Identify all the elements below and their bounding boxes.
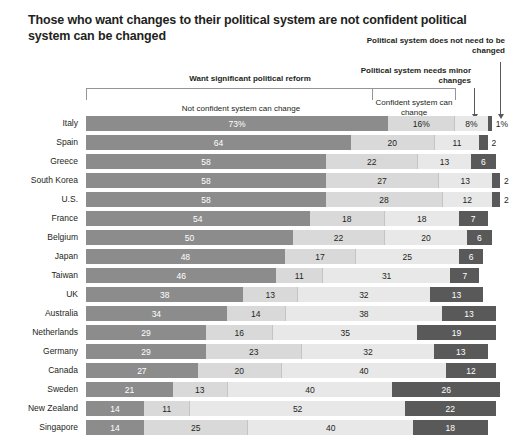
segment-minor-changes: 13 (438, 173, 492, 188)
segment-minor-changes: 20 (384, 230, 467, 245)
segment-value: 13 (452, 290, 461, 300)
segment-no-change: 13 (434, 344, 488, 359)
segment-value: 14 (110, 423, 119, 433)
chart-row: Canada27204012 (0, 363, 531, 382)
country-label: Japan (0, 249, 78, 264)
segment-value: 22 (334, 233, 343, 243)
country-label: Australia (0, 306, 78, 321)
segment-confident: 13 (173, 382, 227, 397)
segment-value: 20 (388, 138, 397, 148)
segment-not-confident: 21 (86, 382, 173, 397)
segment-minor-changes: 11 (434, 135, 480, 150)
segment-minor-changes: 40 (227, 382, 393, 397)
segment-value: 40 (359, 366, 368, 376)
segment-value: 40 (305, 385, 314, 395)
segment-not-confident: 46 (86, 268, 276, 283)
segment-value: 18 (342, 214, 351, 224)
segment-value: 73% (229, 119, 246, 129)
segment-minor-changes: 32 (301, 344, 433, 359)
segment-value: 26 (441, 385, 450, 395)
segment-value: 11 (162, 404, 171, 414)
chart-row: Taiwan4611317 (0, 268, 531, 287)
segment-minor-changes: 40 (247, 420, 413, 435)
segment-confident: 22 (326, 154, 417, 169)
sublabel-confident: Confident system can change (372, 98, 456, 118)
segment-confident: 11 (276, 268, 322, 283)
segment-confident: 13 (243, 287, 297, 302)
segment-no-change: 2 (479, 135, 487, 150)
segment-value: 8% (465, 119, 477, 129)
plot-area: Italy73%16%8%1%Spain6420112Greece5822136… (0, 116, 531, 436)
segment-value: 23 (249, 347, 258, 357)
segment-minor-changes: 38 (285, 306, 442, 321)
segment-confident: 18 (310, 211, 385, 226)
segment-minor-changes: 31 (322, 268, 450, 283)
segment-confident: 20 (351, 135, 434, 150)
stacked-bar: 73%16%8%1% (86, 116, 492, 131)
pointer-arrow-minor-changes-icon (474, 88, 475, 115)
segment-value: 58 (201, 195, 210, 205)
segment-value: 58 (201, 157, 210, 167)
segment-not-confident: 58 (86, 192, 326, 207)
segment-no-change: 13 (430, 287, 484, 302)
segment-not-confident: 50 (86, 230, 293, 245)
segment-value: 32 (359, 290, 368, 300)
segment-value: 29 (141, 347, 150, 357)
segment-value: 22 (367, 157, 376, 167)
segment-not-confident: 27 (86, 363, 198, 378)
segment-no-change: 26 (392, 382, 500, 397)
segment-value: 28 (379, 195, 388, 205)
annotation-no-change: Political system does not need to be cha… (355, 36, 505, 56)
segment-no-change: 7 (459, 211, 488, 226)
segment-not-confident: 29 (86, 344, 206, 359)
segment-no-change: 12 (446, 363, 496, 378)
segment-value: 22 (446, 404, 455, 414)
segment-not-confident: 48 (86, 249, 285, 264)
country-label: Netherlands (0, 325, 78, 340)
segment-no-change: 13 (442, 306, 496, 321)
segment-value: 19 (452, 328, 461, 338)
country-label: Singapore (0, 420, 78, 435)
country-label: New Zealand (0, 401, 78, 416)
segment-not-confident: 29 (86, 325, 206, 340)
segment-value: 31 (382, 271, 391, 281)
segment-value: 7 (462, 271, 467, 281)
chart-row: Belgium5022206 (0, 230, 531, 249)
segment-value: 18 (446, 423, 455, 433)
segment-value: 16 (234, 328, 243, 338)
country-label: Greece (0, 154, 78, 169)
segment-value: 6 (481, 157, 486, 167)
segment-minor-changes: 12 (442, 192, 492, 207)
chart-row: Germany29233213 (0, 344, 531, 363)
segment-value: 64 (214, 138, 223, 148)
country-label: Sweden (0, 382, 78, 397)
stacked-bar: 14254018 (86, 420, 488, 435)
segment-value: 46 (176, 271, 185, 281)
segment-confident: 22 (293, 230, 384, 245)
segment-value: 50 (185, 233, 194, 243)
segment-minor-changes: 52 (189, 401, 404, 416)
stacked-bar: 6420112 (86, 135, 488, 150)
country-label: UK (0, 287, 78, 302)
segment-minor-changes: 13 (417, 154, 471, 169)
stacked-bar: 29163519 (86, 325, 496, 340)
segment-value: 6 (477, 233, 482, 243)
stacked-bar: 27204012 (86, 363, 496, 378)
stacked-bar: 5827132 (86, 173, 500, 188)
chart-row: South Korea5827132 (0, 173, 531, 192)
segment-not-confident: 34 (86, 306, 227, 321)
segment-value: 20 (234, 366, 243, 376)
segment-value: 17 (315, 252, 324, 262)
segment-no-change: 6 (459, 249, 484, 264)
segment-value: 2 (504, 195, 509, 205)
segment-value: 13 (440, 157, 449, 167)
stacked-bar: 5022206 (86, 230, 492, 245)
annotation-minor-changes: Political system needs minor changes (331, 66, 471, 86)
segment-not-confident: 58 (86, 173, 326, 188)
segment-minor-changes: 18 (384, 211, 459, 226)
segment-value: 11 (295, 271, 304, 281)
segment-value: 16% (413, 119, 430, 129)
segment-value: 12 (463, 195, 472, 205)
segment-value: 54 (193, 214, 202, 224)
segment-not-confident: 14 (86, 420, 144, 435)
